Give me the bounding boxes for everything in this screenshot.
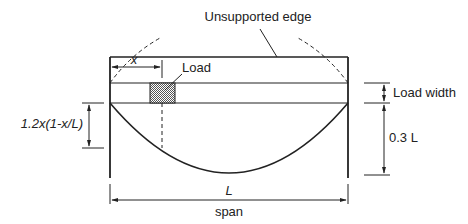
depth-label: 0.3 L [389,130,418,145]
span-L-label: L [225,183,232,198]
deflection-formula-label: 1.2x(1-x/L) [21,116,83,131]
load-label: Load [182,60,211,75]
span-label: span [215,204,243,219]
unsupported-edge-label: Unsupported edge [205,9,312,24]
effective-width-curve [110,103,348,173]
x-label: x [130,52,138,67]
plate-load-diagram: x Load Unsupported edge Load width 0.3 L… [0,0,468,224]
deflection-dimension [82,103,104,148]
right-dashed-arc [298,38,348,83]
depth-dimension [364,105,390,175]
load-width-label: Load width [393,85,456,100]
load-patch [150,83,175,103]
unsupported-edge-leader [260,29,277,57]
load-width-dimension [364,83,390,103]
plate-outline [110,57,348,178]
